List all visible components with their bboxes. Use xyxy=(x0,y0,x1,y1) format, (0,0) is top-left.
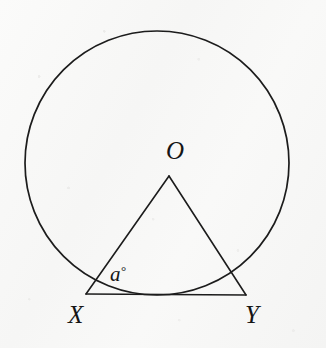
degree-symbol-icon: ° xyxy=(121,263,126,278)
label-center-O: O xyxy=(166,138,184,163)
radius-segment-OX xyxy=(86,176,169,294)
chord-segment-XY xyxy=(86,294,246,295)
circle-geometry-figure xyxy=(0,0,326,348)
label-point-y: Y xyxy=(245,302,259,327)
circle-outline xyxy=(25,31,289,295)
angle-variable: a xyxy=(110,262,121,286)
diagram-canvas: O X Y a° xyxy=(0,0,326,348)
label-angle-a-degrees: a° xyxy=(110,264,126,285)
label-point-x: X xyxy=(68,302,83,327)
radius-segment-OY xyxy=(169,176,246,295)
